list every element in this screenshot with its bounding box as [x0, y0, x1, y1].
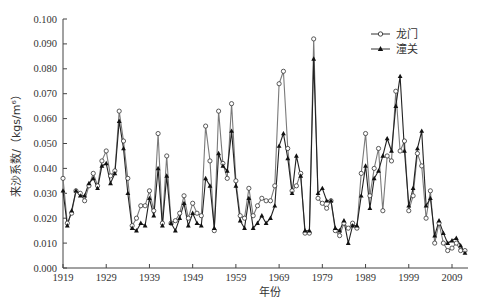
data-point-longmen: [454, 241, 458, 245]
data-point-tongguan: [190, 211, 195, 215]
data-point-tongguan: [195, 221, 200, 225]
data-point-longmen: [229, 102, 233, 106]
data-point-longmen: [139, 204, 143, 208]
data-point-longmen: [433, 241, 437, 245]
data-point-longmen: [381, 209, 385, 213]
data-point-longmen: [204, 124, 208, 128]
data-point-longmen: [450, 246, 454, 250]
data-point-longmen: [376, 146, 380, 150]
x-tick-label: 1999: [398, 272, 419, 283]
x-axis-title: 年份: [259, 285, 281, 299]
data-point-longmen: [195, 211, 199, 215]
data-point-longmen: [199, 214, 203, 218]
data-point-longmen: [363, 131, 367, 135]
data-point-longmen: [152, 209, 156, 213]
data-point-longmen: [415, 151, 419, 155]
data-point-tongguan: [108, 181, 113, 185]
data-point-longmen: [446, 248, 450, 252]
data-point-longmen: [459, 248, 463, 252]
data-point-longmen: [277, 82, 281, 86]
x-tick-label: 1979: [312, 272, 333, 283]
data-point-tongguan: [393, 104, 398, 108]
data-point-longmen: [147, 189, 151, 193]
data-point-tongguan: [428, 196, 433, 200]
data-point-tongguan: [233, 183, 238, 187]
series-group: [61, 37, 468, 255]
data-point-longmen: [385, 154, 389, 158]
data-point-longmen: [325, 206, 329, 210]
data-point-longmen: [134, 216, 138, 220]
data-point-longmen: [117, 109, 121, 113]
data-point-tongguan: [389, 148, 394, 152]
y-axis-title: 来沙系数/（kgs/m⁶）: [10, 89, 23, 197]
y-tick-label: 0.060: [33, 113, 57, 124]
data-point-longmen: [281, 69, 285, 73]
data-point-tongguan: [342, 218, 347, 222]
data-point-longmen: [108, 174, 112, 178]
data-point-longmen: [255, 204, 259, 208]
data-point-longmen: [234, 179, 238, 183]
data-point-longmen: [372, 166, 376, 170]
data-point-tongguan: [346, 241, 351, 245]
data-point-tongguan: [367, 206, 372, 210]
data-point-tongguan: [69, 208, 74, 212]
data-point-tongguan: [437, 218, 442, 222]
data-point-tongguan: [121, 146, 126, 150]
x-tick-label: 1989: [355, 272, 376, 283]
legend-label-longmen: 龙门: [396, 27, 418, 41]
data-point-tongguan: [398, 74, 403, 78]
data-point-longmen: [264, 199, 268, 203]
y-tick-label: 0.100: [33, 14, 57, 25]
data-point-longmen: [61, 176, 65, 180]
data-point-longmen: [104, 149, 108, 153]
data-point-tongguan: [277, 143, 282, 147]
series-line-tongguan: [63, 59, 465, 253]
data-point-tongguan: [212, 226, 217, 230]
data-point-longmen: [83, 199, 87, 203]
data-point-tongguan: [138, 221, 143, 225]
data-point-tongguan: [311, 56, 316, 60]
data-point-tongguan: [454, 236, 459, 240]
data-point-longmen: [286, 146, 290, 150]
data-point-longmen: [428, 189, 432, 193]
data-point-tongguan: [259, 213, 264, 217]
data-point-tongguan: [441, 231, 446, 235]
data-point-longmen: [178, 211, 182, 215]
data-point-longmen: [247, 186, 251, 190]
chart: 0.0000.0100.0200.0300.0400.0500.0600.070…: [0, 0, 478, 306]
data-point-longmen: [242, 216, 246, 220]
x-ticks: 1919192919391949195919691979198919992009: [53, 264, 463, 283]
data-point-tongguan: [285, 156, 290, 160]
x-tick-label: 1959: [225, 272, 246, 283]
data-point-tongguan: [203, 176, 208, 180]
data-point-longmen: [126, 176, 130, 180]
data-point-longmen: [238, 214, 242, 218]
x-tick-label: 1919: [53, 272, 74, 283]
data-point-longmen: [359, 171, 363, 175]
data-point-longmen: [368, 194, 372, 198]
data-point-longmen: [208, 159, 212, 163]
data-point-tongguan: [238, 218, 243, 222]
data-point-longmen: [156, 131, 160, 135]
x-tick-label: 1969: [269, 272, 290, 283]
legend-item-longmen: 龙门: [371, 27, 418, 41]
data-point-tongguan: [186, 223, 191, 227]
y-tick-label: 0.080: [33, 63, 57, 74]
legend-label-tongguan: 潼关: [396, 42, 418, 56]
data-point-tongguan: [415, 146, 420, 150]
data-point-longmen: [398, 149, 402, 153]
data-point-tongguan: [419, 128, 424, 132]
data-point-longmen: [294, 184, 298, 188]
data-point-longmen: [441, 241, 445, 245]
data-point-tongguan: [320, 186, 325, 190]
data-point-longmen: [100, 159, 104, 163]
data-point-longmen: [420, 164, 424, 168]
data-point-longmen: [268, 199, 272, 203]
data-point-longmen: [338, 234, 342, 238]
y-tick-label: 0.040: [33, 163, 57, 174]
data-point-longmen: [91, 171, 95, 175]
data-point-longmen: [312, 37, 316, 41]
data-point-longmen: [389, 159, 393, 163]
legend-item-tongguan: 潼关: [371, 42, 418, 56]
x-tick-label: 2009: [442, 272, 463, 283]
